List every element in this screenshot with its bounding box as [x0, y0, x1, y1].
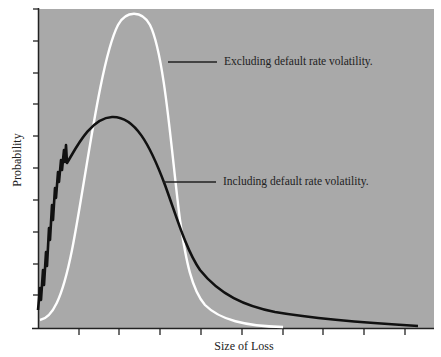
x-axis-label: Size of Loss: [214, 339, 273, 354]
annotation-excluding: Excluding default rate volatility.: [224, 55, 373, 67]
annotation-including: Including default rate volatility.: [223, 175, 369, 187]
chart: [0, 0, 441, 357]
y-axis-label: Probability: [10, 133, 25, 186]
